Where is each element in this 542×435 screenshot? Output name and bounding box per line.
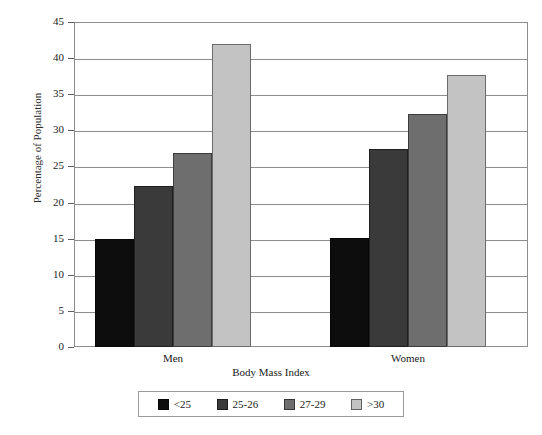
bar <box>447 75 486 347</box>
bar <box>369 149 408 347</box>
y-axis-tick-label-wrap: 20 <box>20 197 64 208</box>
y-axis-tick-label: 0 <box>24 341 64 352</box>
y-axis-tick <box>68 347 74 348</box>
y-axis-tick-label: 20 <box>24 197 64 208</box>
y-axis-tick-label-wrap: 35 <box>20 88 64 99</box>
bar <box>134 186 173 347</box>
y-axis-tick-label: 35 <box>24 88 64 99</box>
y-axis-tick-label-wrap: 15 <box>20 233 64 244</box>
legend-label: 25-26 <box>233 399 259 410</box>
legend-swatch <box>217 399 228 410</box>
y-axis-tick-label-wrap: 30 <box>20 124 64 135</box>
bar <box>173 153 212 347</box>
bar-chart: Percentage of Population 051015202530354… <box>0 0 542 435</box>
legend-item: >30 <box>351 399 384 410</box>
y-axis-tick-label-wrap: 0 <box>20 341 64 352</box>
y-axis-tick-label-wrap: 10 <box>20 269 64 280</box>
legend-swatch <box>284 399 295 410</box>
y-axis-tick-label: 10 <box>24 269 64 280</box>
bar <box>212 44 251 347</box>
y-axis-tick-label-wrap: 5 <box>20 305 64 316</box>
y-axis-tick-label: 30 <box>24 124 64 135</box>
legend-swatch <box>351 399 362 410</box>
bar <box>330 238 369 347</box>
y-axis-tick-label-wrap: 25 <box>20 160 64 171</box>
bars-layer <box>74 22 528 347</box>
legend-label: <25 <box>174 399 191 410</box>
y-axis-tick-label: 40 <box>24 52 64 63</box>
legend-label: >30 <box>367 399 384 410</box>
y-axis-tick-label: 15 <box>24 233 64 244</box>
y-axis-tick-label: 25 <box>24 160 64 171</box>
legend: <2525-2627-29>30 <box>138 391 404 417</box>
y-axis-tick-label: 45 <box>24 16 64 27</box>
legend-item: 25-26 <box>217 399 259 410</box>
y-axis-title: Percentage of Population <box>31 48 43 248</box>
x-axis-title: Body Mass Index <box>0 366 542 379</box>
bar <box>408 114 447 347</box>
y-axis-tick-label-wrap: 40 <box>20 52 64 63</box>
x-axis-group-label: Men <box>113 352 233 365</box>
legend-item: <25 <box>158 399 191 410</box>
x-axis-group-label: Women <box>348 352 468 365</box>
y-axis-tick-label-wrap: 45 <box>20 16 64 27</box>
y-axis-tick-label: 5 <box>24 305 64 316</box>
bar <box>95 239 134 347</box>
legend-item: 27-29 <box>284 399 326 410</box>
legend-label: 27-29 <box>300 399 326 410</box>
legend-swatch <box>158 399 169 410</box>
